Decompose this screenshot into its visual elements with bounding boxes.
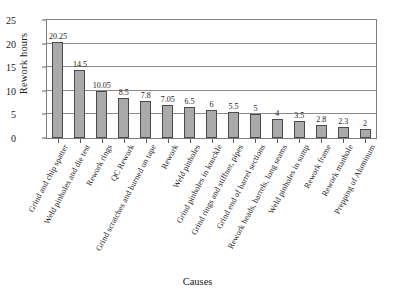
x-tick-mark: [233, 139, 234, 143]
bar: [74, 70, 85, 138]
x-tick-label: Prepping of Aluminum: [333, 143, 377, 216]
x-tick-mark: [124, 139, 125, 143]
bar: [206, 110, 217, 138]
bar: [118, 98, 129, 138]
x-tick-mark: [146, 139, 147, 143]
bar: [184, 107, 195, 138]
bar: [294, 121, 305, 138]
bar-group: 7.05: [157, 20, 179, 138]
bar-value-label: 7.8: [141, 91, 151, 100]
bar-group: 5.5: [223, 20, 245, 138]
bar-group: 2.3: [332, 20, 354, 138]
bar-value-label: 8.5: [119, 88, 129, 97]
bar-value-label: 2.8: [316, 115, 326, 124]
bar-value-label: 5.5: [228, 102, 238, 111]
bar-value-label: 10.05: [93, 81, 111, 90]
bar-value-label: 3.5: [294, 111, 304, 120]
bar: [52, 42, 63, 138]
bar: [162, 105, 173, 138]
bar-value-label: 6: [210, 100, 214, 109]
bar: [272, 119, 283, 138]
y-tick-label: 5: [0, 109, 16, 120]
bar-value-label: 6.5: [185, 97, 195, 106]
bar-series: 20.2514.510.058.57.87.056.565.5543.52.82…: [47, 20, 376, 138]
x-tick-mark: [168, 139, 169, 143]
y-tick-label: 0: [0, 133, 16, 144]
bar-group: 5: [244, 20, 266, 138]
x-tick-mark: [102, 139, 103, 143]
x-tick-mark: [299, 139, 300, 143]
x-tick-mark: [343, 139, 344, 143]
x-tick-mark: [365, 139, 366, 143]
y-axis-title: Rework hours: [18, 19, 29, 109]
bar-value-label: 2: [363, 119, 367, 128]
bar: [96, 91, 107, 138]
x-tick-label: Grind and chip spatter: [27, 143, 70, 214]
y-tick-label: 20: [0, 38, 16, 49]
bar-group: 2.8: [310, 20, 332, 138]
bar-group: 3.5: [288, 20, 310, 138]
y-tick-label: 10: [0, 85, 16, 96]
bar-group: 2: [354, 20, 376, 138]
bar-value-label: 20.25: [49, 32, 67, 41]
bar: [338, 127, 349, 138]
bar-group: 6: [201, 20, 223, 138]
x-axis-tick-marks: [47, 139, 376, 143]
bar: [228, 112, 239, 138]
bar: [316, 125, 327, 138]
y-tick-label: 15: [0, 62, 16, 73]
x-tick-mark: [212, 139, 213, 143]
x-tick-mark: [80, 139, 81, 143]
bar: [360, 129, 371, 138]
x-tick-mark: [190, 139, 191, 143]
bar-group: 20.25: [47, 20, 69, 138]
bar: [250, 114, 261, 138]
bar-group: 10.05: [91, 20, 113, 138]
bar-group: 6.5: [179, 20, 201, 138]
bar-value-label: 4: [275, 109, 279, 118]
y-tick-label: 25: [0, 15, 16, 26]
x-axis-title: Causes: [0, 276, 395, 287]
bar-value-label: 5: [253, 104, 257, 113]
bar-value-label: 7.05: [161, 95, 175, 104]
x-tick-mark: [277, 139, 278, 143]
bar: [140, 101, 151, 138]
bar-group: 7.8: [135, 20, 157, 138]
x-tick-mark: [255, 139, 256, 143]
x-tick-mark: [58, 139, 59, 143]
bar-group: 8.5: [113, 20, 135, 138]
x-tick-mark: [321, 139, 322, 143]
bar-value-label: 2.3: [338, 117, 348, 126]
bar-value-label: 14.5: [73, 60, 87, 69]
x-tick-label: Rework: [159, 143, 179, 171]
rework-hours-bar-chart: Rework hours 0510152025 20.2514.510.058.…: [0, 0, 395, 298]
bar-group: 14.5: [69, 20, 91, 138]
bar-group: 4: [266, 20, 288, 138]
